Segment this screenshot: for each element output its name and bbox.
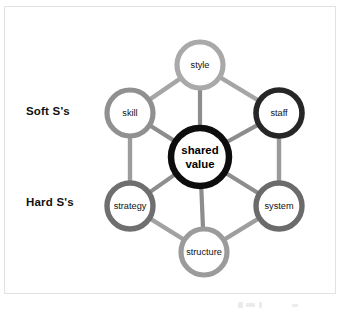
node-skill[interactable]: skill [107,90,153,136]
hard-s-label: Hard S's [26,196,74,208]
node-shared-value[interactable]: sharedvalue [171,128,229,186]
spoke-structure-shared-value [201,188,203,228]
center-circle: sharedvalue [171,128,229,186]
edge-skill-style [150,79,180,100]
spoke-system-shared-value [226,173,258,193]
node-skill-label: skill [122,108,137,118]
spoke-staff-shared-value [227,125,258,142]
node-structure-label: structure [186,247,222,257]
spoke-strategy-shared-value [150,175,175,192]
node-staff-label: staff [270,108,288,118]
node-staff[interactable]: staff [256,90,302,136]
diagram-canvas: stylestaffsystemstructurestrategyskill s… [0,0,346,315]
center-label-line2: value [185,158,214,170]
center-label-line1: shared [181,144,218,156]
center-label: sharedvalue [181,144,218,170]
node-strategy[interactable]: strategy [107,183,153,229]
node-system-label: system [264,201,293,211]
seven-s-diagram: stylestaffsystemstructurestrategyskill s… [0,0,346,315]
edge-style-staff [221,78,259,101]
node-style-label: style [191,60,210,70]
node-strategy-label: strategy [114,201,147,211]
spoke-skill-shared-value [150,126,174,141]
edge-system-structure [225,219,259,240]
edge-structure-strategy [151,219,184,240]
soft-s-label: Soft S's [26,105,70,117]
node-style[interactable]: style [177,42,223,88]
scan-artifact [236,299,332,310]
node-system[interactable]: system [256,183,302,229]
node-structure[interactable]: structure [181,229,227,275]
